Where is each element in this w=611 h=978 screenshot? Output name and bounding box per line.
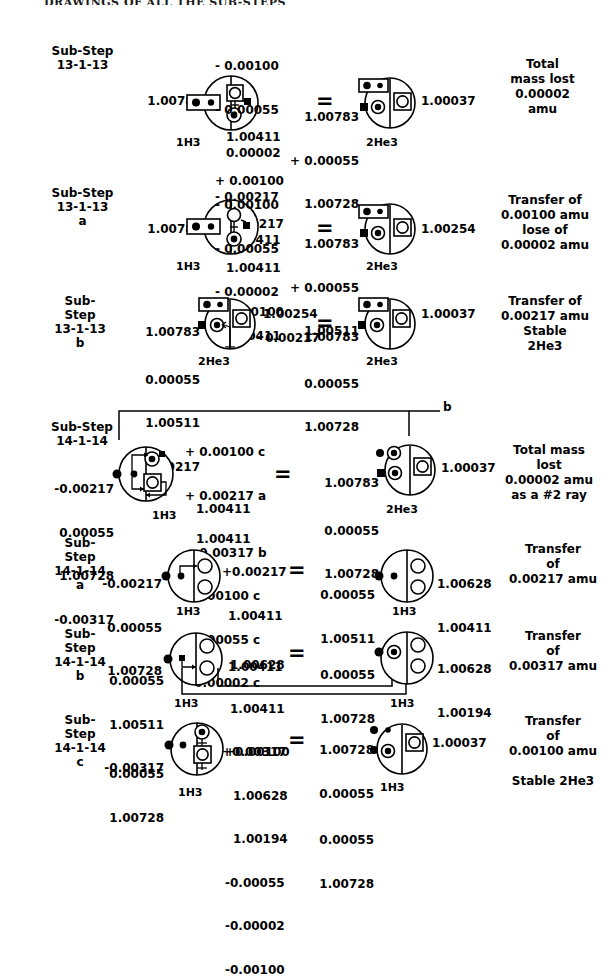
right-output-s1: 1.00037 [421,94,483,109]
top-stack-item: - 0.00100 [215,59,311,74]
left-input-item: 0.00055 [92,767,164,782]
isotope-label-right-s2: 2He3 [366,260,398,273]
result-text-s5: Transfer of 0.00217 amu [497,542,609,587]
right-input-item: 1.00728 [296,743,374,758]
top-stack-item: + 0.00100 c [185,445,295,460]
right-output-s3: 1.00037 [421,307,483,322]
left-input-stack-s7: 0.00055 1.00728 [92,738,164,854]
isotope-label-right-s1: 2He3 [366,136,398,149]
right-input-item: 0.00055 [296,833,374,848]
step-label-13-1-13-a: Sub-Step 13-1-13 a [30,186,135,228]
equals-sign-s4: = [274,464,292,484]
atom-1h3-left-s7 [166,718,228,780]
right-input-item: 1.00783 [282,330,359,345]
isotope-label-left-s3: 2He3 [198,355,230,368]
branch-label-b: b [443,401,452,414]
isotope-label-left-s7: 1H3 [178,786,203,799]
right-input-item: + 0.00055 [282,154,359,169]
isotope-label-left-s1: 1H3 [176,136,201,149]
atom-2he3-right-s7 [372,720,432,778]
right-input-stack-s7: 1.00728 0.00055 0.00055 1.00728 [296,714,374,920]
left-input-item: 0.00055 [118,373,200,388]
right-input-item: 1.00728 [296,877,374,892]
step-label-13-1-13-b: Sub- Step 13-1-13 b [34,294,126,350]
atom-2he3-right-s4 [380,441,440,499]
atom-2he3-right-s1 [360,74,420,132]
isotope-label-right-s5: 1H3 [392,605,417,618]
isotope-label-left-s5: 1H3 [176,605,201,618]
atom-1h3-right-s5 [376,546,438,606]
isotope-label-right-s3: 2He3 [366,355,398,368]
atom-2he3-right-s3 [360,295,420,353]
right-input-item: + 0.00055 [282,281,359,296]
right-input-item: 0.00055 [282,377,359,392]
left-input-item: -0.00217 [90,577,162,592]
right-input-item: 0.00055 [302,524,379,539]
right-input-item: 1.00783 [282,237,359,252]
mid-stack-item: 1.00411 [185,502,295,517]
isotope-label-left-s4: 1H3 [152,509,177,522]
result-text-s2: Transfer of 0.00100 amu lose of 0.00002 … [480,193,610,253]
result-text-s4: Total mass lost 0.00002 amu as a #2 ray [488,443,610,503]
left-input-item: 1.00728 [92,811,164,826]
isotope-label-left-s6: 1H3 [174,697,199,710]
right-input-item: 1.00783 [302,476,379,491]
atom-1h3-left-s4 [112,443,180,505]
right-input-item: 1.00783 [282,110,359,125]
right-output-s2: 1.00254 [421,222,483,237]
isotope-label-right-s7: 1H3 [380,781,405,794]
left-input-item: 1.00783 [118,325,200,340]
left-input-item: 0.00055 [92,674,164,689]
result-text-s3: Transfer of 0.00217 amu Stable 2He3 [480,294,610,354]
atom-2he3-left-s3 [200,295,260,355]
isotope-label-right-s6: 1H3 [390,697,415,710]
step-label-13-1-13: Sub-Step 13-1-13 [30,44,135,72]
right-input-item: 0.00055 [300,588,375,603]
left-input-item: -0.00217 [22,482,114,497]
result-text-s1: Total mass lost 0.00002 amu [480,57,605,117]
result-text-s6: Transfer of 0.00317 amu [497,629,609,674]
atom-1h3-right-s6 [376,628,438,688]
right-input-item: 0.00055 [296,787,374,802]
atom-1h3-left-s5 [160,546,224,606]
right-input-item: 0.00055 [300,668,375,683]
output-item: -0.00100 [225,963,321,978]
page-title: DRAWINGS OF ALL THE SUB-STEPS [44,0,286,5]
isotope-label-right-s4: 2He3 [386,503,418,516]
output-item: 1.00411 [222,609,310,624]
output-item: -0.00002 [225,919,321,934]
right-output-s7: 1.00037 [432,736,494,751]
atom-2he3-right-s2 [360,200,420,258]
isotope-label-left-s2: 1H3 [176,260,201,273]
result-text-s7: Transfer of 0.00100 amu Stable 2He3 [497,714,609,789]
